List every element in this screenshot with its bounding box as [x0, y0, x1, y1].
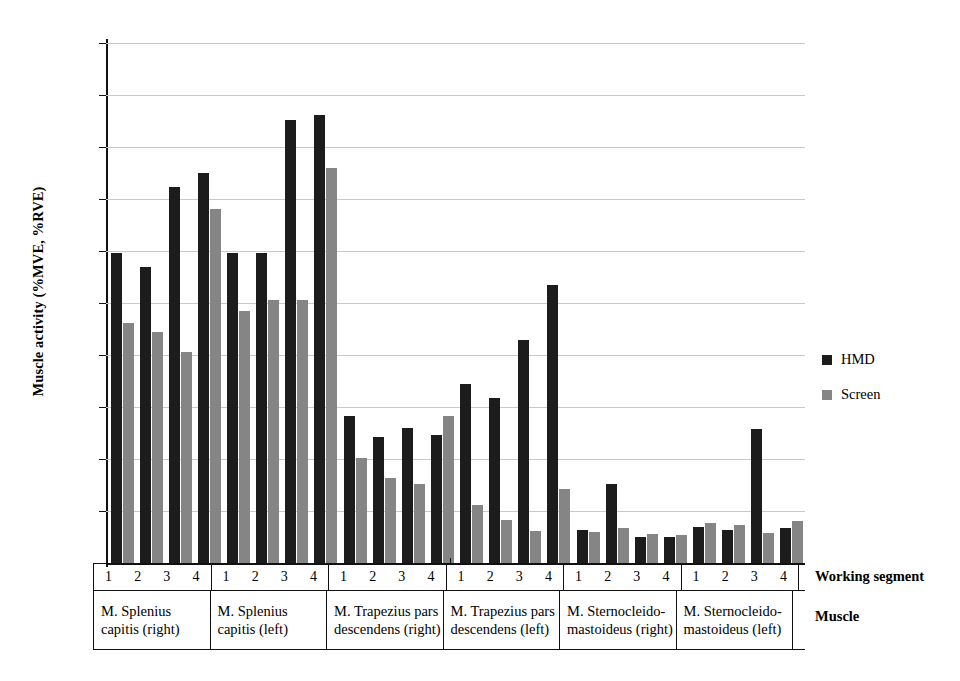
legend: HMDScreen: [822, 351, 880, 421]
bar-screen: [123, 323, 134, 563]
bar-pair: [751, 43, 780, 563]
y-tick-25: [99, 303, 106, 304]
segment-cell: 3: [387, 564, 416, 590]
muscle-cell: M. Trapezius pars descendens (left): [444, 591, 561, 649]
segment-cell: 1: [212, 564, 241, 590]
segment-group: 1234: [564, 564, 682, 590]
bar-screen: [705, 523, 716, 563]
legend-swatch-icon: [822, 390, 832, 400]
segment-cell: 3: [152, 564, 181, 590]
bar-hmd: [256, 253, 267, 563]
segment-cell: 4: [534, 564, 563, 590]
y-axis-title: Muscle activity (%MVE, %RVE): [30, 132, 47, 452]
y-tick-20: [99, 355, 106, 356]
segment-cell: 2: [593, 564, 622, 590]
bars-container: [107, 43, 805, 563]
bar-pair: [635, 43, 664, 563]
segment-cell: 1: [447, 564, 476, 590]
bar-group: [457, 43, 574, 563]
segment-group: 1234: [447, 564, 565, 590]
bar-screen: [443, 416, 454, 563]
segment-group: 1234: [94, 564, 212, 590]
muscle-cell: M. Sternocleido-mastoideus (left): [677, 591, 794, 649]
y-tick-10: [99, 459, 106, 460]
bar-pair: [518, 43, 547, 563]
bar-screen: [297, 300, 308, 563]
bar-screen: [792, 521, 803, 563]
bar-screen: [385, 478, 396, 563]
segment-cell: 4: [299, 564, 328, 590]
bar-chart-figure: Muscle activity (%MVE, %RVE) 05101520253…: [0, 0, 960, 681]
muscle-cell: M. Trapezius pars descendens (right): [327, 591, 444, 649]
legend-label: Screen: [841, 386, 880, 403]
bar-pair: [577, 43, 606, 563]
legend-label: HMD: [841, 351, 875, 368]
y-tick-50: [99, 43, 106, 44]
segment-cell: 2: [241, 564, 270, 590]
bar-screen: [152, 332, 163, 563]
bar-pair: [780, 43, 809, 563]
bar-pair: [402, 43, 431, 563]
bar-pair: [140, 43, 169, 563]
segment-cell: 3: [622, 564, 651, 590]
bar-pair: [256, 43, 285, 563]
segment-cell: 4: [416, 564, 445, 590]
bar-screen: [501, 520, 512, 563]
category-table: 123412341234123412341234 M. Splenius cap…: [93, 563, 805, 650]
bar-screen: [472, 505, 483, 563]
bar-hmd: [722, 530, 733, 563]
bar-pair: [606, 43, 635, 563]
bar-pair: [227, 43, 256, 563]
y-tick-45: [99, 95, 106, 96]
bar-screen: [676, 535, 687, 563]
row-header-working-segment: Working segment: [815, 568, 924, 585]
bar-screen: [414, 484, 425, 563]
bar-screen: [239, 311, 250, 563]
bar-group: [107, 43, 224, 563]
muscle-cell: M. Splenius capitis (right): [94, 591, 211, 649]
bar-screen: [589, 532, 600, 563]
segment-group: 1234: [212, 564, 330, 590]
row-header-muscle: Muscle: [815, 608, 859, 625]
bar-screen: [210, 209, 221, 563]
y-tick-5: [99, 511, 106, 512]
bar-hmd: [198, 173, 209, 563]
bar-group: [340, 43, 457, 563]
bar-hmd: [489, 398, 500, 563]
segment-cell: 4: [769, 564, 798, 590]
segment-cell: 3: [740, 564, 769, 590]
bar-screen: [530, 531, 541, 563]
y-tick-40: [99, 147, 106, 148]
bar-pair: [285, 43, 314, 563]
segment-cell: 4: [651, 564, 680, 590]
segment-cell: 2: [123, 564, 152, 590]
bar-hmd: [402, 428, 413, 563]
working-segment-row: 123412341234123412341234: [93, 563, 805, 590]
bar-hmd: [780, 528, 791, 563]
bar-screen: [618, 528, 629, 563]
bar-hmd: [460, 384, 471, 563]
muscle-cell: M. Sternocleido-mastoideus (right): [560, 591, 677, 649]
bar-pair: [722, 43, 751, 563]
muscle-row: M. Splenius capitis (right)M. Splenius c…: [93, 590, 805, 650]
y-tick-35: [99, 199, 106, 200]
bar-hmd: [111, 253, 122, 563]
bar-pair: [460, 43, 489, 563]
legend-item: Screen: [822, 386, 880, 403]
bar-hmd: [344, 416, 355, 563]
bar-hmd: [140, 267, 151, 563]
bar-hmd: [285, 120, 296, 563]
bar-hmd: [547, 285, 558, 563]
bar-group: [690, 43, 807, 563]
plot-area: [106, 43, 805, 563]
bar-screen: [763, 533, 774, 563]
legend-swatch-icon: [822, 355, 832, 365]
segment-group: 1234: [682, 564, 800, 590]
bar-group: [573, 43, 690, 563]
legend-item: HMD: [822, 351, 880, 368]
bar-screen: [559, 489, 570, 563]
segment-cell: 4: [181, 564, 210, 590]
bar-hmd: [664, 537, 675, 563]
bar-hmd: [518, 340, 529, 563]
bar-hmd: [169, 187, 180, 563]
